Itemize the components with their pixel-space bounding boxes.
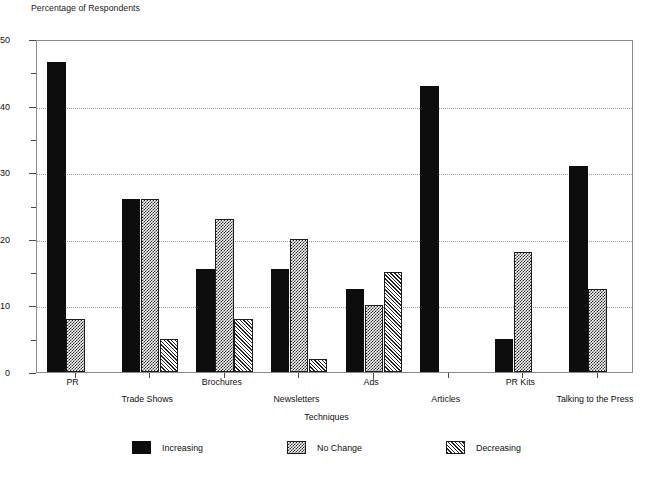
y-tick-minor-35 <box>31 140 36 141</box>
y-tick-label-50: 50 <box>0 35 10 45</box>
bar-brochures-increasing[interactable] <box>196 269 215 372</box>
x-axis-title: Techniques <box>0 412 653 422</box>
bar-newsletters-no-change[interactable] <box>290 239 309 372</box>
legend-swatch-icon-no-change <box>287 441 306 454</box>
legend-item-increasing[interactable]: Increasing <box>132 441 203 454</box>
bar-trade-shows-increasing[interactable] <box>122 199 141 372</box>
x-axis-label-pr: PR <box>66 377 78 387</box>
x-tick-trade-shows <box>149 373 150 378</box>
bars-layer <box>37 41 632 372</box>
legend-label: Increasing <box>162 443 203 453</box>
bar-trade-shows-no-change[interactable] <box>141 199 160 372</box>
y-tick-minor-25 <box>31 207 36 208</box>
x-axis-label-trade-shows: Trade Shows <box>121 394 173 404</box>
bar-newsletters-decreasing[interactable] <box>309 359 328 372</box>
bar-pr-kits-no-change[interactable] <box>514 252 533 372</box>
bar-ads-increasing[interactable] <box>346 289 365 372</box>
bar-talking-to-the-press-increasing[interactable] <box>569 166 588 372</box>
y-tick-30 <box>29 173 36 174</box>
x-tick-articles <box>448 373 449 378</box>
bar-brochures-no-change[interactable] <box>215 219 234 372</box>
y-tick-label-30: 30 <box>0 168 10 178</box>
y-tick-label-10: 10 <box>0 301 10 311</box>
legend-item-decreasing[interactable]: Decreasing <box>446 441 521 454</box>
y-tick-minor-15 <box>31 273 36 274</box>
x-axis-label-newsletters: Newsletters <box>273 394 319 404</box>
legend-swatch-icon-decreasing <box>446 441 465 454</box>
y-tick-minor-45 <box>31 73 36 74</box>
x-tick-talking-to-the-press <box>597 373 598 378</box>
plot-area <box>36 40 633 373</box>
x-axis-label-ads: Ads <box>364 377 379 387</box>
legend-item-no-change[interactable]: No Change <box>287 441 362 454</box>
y-tick-label-0: 0 <box>5 368 10 378</box>
bar-trade-shows-decreasing[interactable] <box>160 339 179 372</box>
bar-articles-increasing[interactable] <box>420 86 439 372</box>
bar-pr-kits-increasing[interactable] <box>495 339 514 372</box>
x-axis-label-articles: Articles <box>431 394 460 404</box>
bar-talking-to-the-press-no-change[interactable] <box>588 289 607 372</box>
y-tick-40 <box>29 107 36 108</box>
x-axis-label-brochures: Brochures <box>202 377 242 387</box>
legend-label: Decreasing <box>476 443 521 453</box>
bar-newsletters-increasing[interactable] <box>271 269 290 372</box>
y-tick-minor-5 <box>31 340 36 341</box>
x-tick-newsletters <box>298 373 299 378</box>
y-axis: 01020304050 <box>0 0 36 480</box>
bar-ads-decreasing[interactable] <box>384 272 403 372</box>
bar-brochures-decreasing[interactable] <box>234 319 253 372</box>
bar-pr-no-change[interactable] <box>66 319 85 372</box>
y-tick-label-40: 40 <box>0 102 10 112</box>
y-tick-50 <box>29 40 36 41</box>
x-axis-label-pr-kits: PR Kits <box>506 377 535 387</box>
y-axis-title: Percentage of Respondents <box>31 3 140 13</box>
y-tick-0 <box>29 373 36 374</box>
y-tick-20 <box>29 240 36 241</box>
legend-swatch-icon-increasing <box>132 441 151 454</box>
legend-label: No Change <box>317 443 362 453</box>
bar-pr-increasing[interactable] <box>47 62 66 372</box>
y-tick-10 <box>29 306 36 307</box>
y-tick-label-20: 20 <box>0 235 10 245</box>
x-axis-label-talking-to-the-press: Talking to the Press <box>557 394 634 404</box>
bar-ads-no-change[interactable] <box>365 305 384 372</box>
chart-legend: IncreasingNo ChangeDecreasing <box>0 441 653 454</box>
